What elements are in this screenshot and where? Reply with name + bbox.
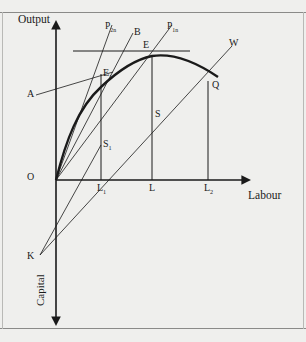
tick-label-l1: L1	[97, 183, 106, 195]
ray-k-to-w	[40, 46, 232, 255]
point-label-s1: S1	[103, 139, 112, 151]
point-label-q: Q	[212, 80, 219, 90]
total-product-curve	[56, 55, 218, 180]
tick-label-l2-sub: 2	[210, 188, 213, 195]
point-label-s: S	[155, 109, 161, 119]
point-label-b: B	[134, 27, 141, 37]
point-label-p1n-sub: 1n	[172, 27, 178, 33]
point-label-a: A	[27, 89, 34, 99]
tick-label-l2: L2	[204, 183, 213, 195]
ray-origin-to-p1n	[56, 25, 172, 180]
ray-origin-to-b	[56, 33, 133, 180]
point-label-e: E	[143, 40, 149, 50]
output-axis-title: Output	[18, 14, 50, 26]
figure-canvas: Output Labour Capital O A K B E E1 P2n P…	[0, 0, 306, 342]
point-label-origin: O	[27, 172, 34, 182]
point-label-p1n: P1n	[167, 22, 178, 34]
point-label-e1: E1	[103, 68, 112, 80]
tick-label-l1-sub: 1	[103, 188, 106, 195]
tick-label-l: L	[149, 183, 155, 193]
point-label-s1-sub: 1	[109, 144, 112, 151]
capital-axis-title: Capital	[34, 274, 46, 306]
point-label-k: K	[27, 251, 34, 261]
ray-origin-to-p2n	[56, 25, 112, 180]
point-label-e1-sub: 1	[109, 73, 112, 80]
labour-axis-title: Labour	[248, 190, 281, 202]
point-label-p2n-sub: 2n	[110, 27, 116, 33]
point-label-p2n: P2n	[105, 22, 116, 34]
point-label-w: W	[229, 38, 238, 48]
ray-k-to-s1	[40, 145, 101, 255]
